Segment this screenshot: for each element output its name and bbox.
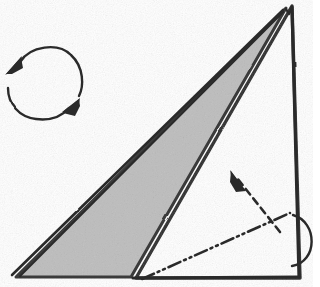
origami-diagram — [0, 0, 320, 287]
diagram-canvas — [0, 0, 320, 287]
bottom-edge — [133, 277, 299, 278]
